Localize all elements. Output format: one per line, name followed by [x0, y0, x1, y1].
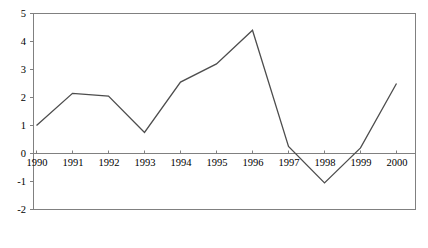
x-tick-label-1997: 1997	[272, 157, 306, 168]
x-tick-label-1996: 1996	[236, 157, 270, 168]
y-tick-label-neg1: -1	[2, 176, 26, 187]
chart-canvas	[0, 0, 428, 248]
x-tick-label-1991: 1991	[56, 157, 90, 168]
y-tick-label-5: 5	[2, 8, 26, 19]
y-tick-label-4: 4	[2, 36, 26, 47]
x-tick-label-1990: 1990	[20, 157, 54, 168]
x-tick-label-1994: 1994	[164, 157, 198, 168]
x-tick-label-1998: 1998	[308, 157, 342, 168]
x-tick-label-1999: 1999	[344, 157, 378, 168]
y-tick-label-1: 1	[2, 120, 26, 131]
x-tick-label-1992: 1992	[92, 157, 126, 168]
y-axis-ticks	[30, 14, 34, 210]
y-tick-label-neg2: -2	[2, 204, 26, 215]
line-chart: 5 4 3 2 1 0 -1 -2 1990 1991 1992 1993 19…	[0, 0, 428, 248]
y-tick-label-2: 2	[2, 92, 26, 103]
x-tick-label-2000: 2000	[380, 157, 414, 168]
x-tick-label-1993: 1993	[128, 157, 162, 168]
plot-area-border	[34, 14, 416, 210]
x-tick-label-1995: 1995	[200, 157, 234, 168]
y-tick-label-3: 3	[2, 64, 26, 75]
